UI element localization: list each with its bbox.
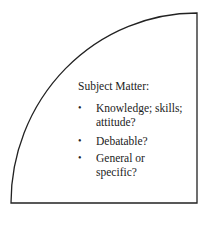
list-item: General or bbox=[96, 151, 145, 165]
bullet-icon: • bbox=[78, 152, 82, 163]
section-title: Subject Matter: bbox=[78, 79, 149, 93]
list-item-continued: specific? bbox=[96, 165, 137, 179]
list-item: Knowledge; skills; bbox=[96, 101, 183, 115]
list-item-continued: attitude? bbox=[96, 115, 136, 129]
list-item: Debatable? bbox=[96, 134, 148, 148]
bullet-icon: • bbox=[78, 135, 82, 146]
bullet-icon: • bbox=[78, 102, 82, 113]
